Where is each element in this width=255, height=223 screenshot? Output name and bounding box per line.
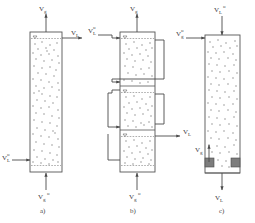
panel-b-liquid-inlet-subscript: L <box>93 31 96 36</box>
panel-c-vessel <box>205 35 240 173</box>
panel-c-liquid-outlet-subscript: L <box>220 198 223 203</box>
panel-c-gas-outlet-subscript: g <box>200 150 203 155</box>
panel-b-liquid-inlet-pipe <box>98 35 120 38</box>
panel-c-right-baffle-block <box>231 158 240 167</box>
flow-diagram: V g V L V L o V g o a) <box>0 0 255 223</box>
panel-c-liquid-inlet-superscript: o <box>223 4 226 9</box>
panel-b-gas-inlet-subscript: g <box>134 197 137 202</box>
panel-b-recycle-loop-3 <box>155 94 164 124</box>
panel-a-liquid-outlet-subscript: L <box>76 33 79 38</box>
panel-c-liquid-inlet-subscript: L <box>219 10 222 15</box>
panel-c: V L o V g o V g V L c) <box>176 4 240 215</box>
panel-a: V g V L V L o V g o a) <box>2 5 82 215</box>
figure-container: V g V L V L o V g o a) <box>0 0 255 223</box>
panel-b-lower-return-line <box>108 134 120 160</box>
panel-a-liquid-inlet-subscript: L <box>7 158 10 163</box>
panel-b-liquid-inlet-superscript: o <box>93 25 96 30</box>
panel-a-gas-inlet-subscript: g <box>43 197 46 202</box>
panel-a-liquid-inlet-superscript: o <box>7 152 10 157</box>
panel-a-vessel <box>30 32 62 172</box>
panel-b-gas-outlet-subscript: g <box>135 9 138 14</box>
panel-b-gas-inlet-superscript: o <box>138 191 141 196</box>
panel-c-left-baffle-block <box>205 158 214 167</box>
panel-b-recycle-loop-2 <box>108 90 120 127</box>
panel-c-caption: c) <box>219 207 225 215</box>
panel-a-gas-inlet-superscript: o <box>47 191 50 196</box>
panel-b-caption: b) <box>130 207 137 215</box>
panel-c-gas-inlet-subscript: g <box>181 34 184 39</box>
panel-b-liquid-outlet-subscript: L <box>188 132 191 137</box>
panel-c-gas-inlet-superscript: o <box>181 28 184 33</box>
panel-a-gas-outlet-subscript: g <box>44 9 47 14</box>
panel-a-caption: a) <box>40 207 46 215</box>
